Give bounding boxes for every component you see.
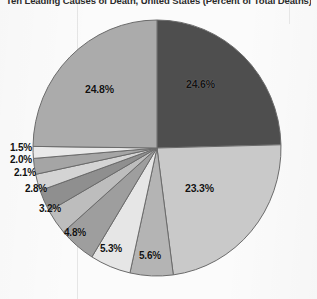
- pie-slice-label: 1.5%: [10, 142, 32, 153]
- pie-slice-label: 5.3%: [100, 243, 122, 254]
- pie-slice-label: 23.3%: [185, 182, 214, 194]
- pie-slice[interactable]: [157, 20, 281, 148]
- pie-slice[interactable]: [157, 145, 281, 275]
- pie-slice-label: 4.8%: [64, 227, 86, 238]
- pie-slice-label: 24.8%: [85, 83, 114, 95]
- pie-slice-label: 3.2%: [39, 203, 61, 214]
- pie-chart-svg: [31, 19, 283, 277]
- pie-slice-label: 2.8%: [25, 183, 47, 194]
- pie-slice-label: 2.0%: [10, 154, 32, 165]
- pie-chart: [31, 19, 283, 277]
- chart-title: Ten Leading Causes of Death, United Stat…: [6, 0, 311, 7]
- pie-slice-label: 24.6%: [186, 78, 215, 90]
- pie-slice-label: 2.1%: [14, 167, 36, 178]
- pie-slice-label: 5.6%: [139, 250, 161, 261]
